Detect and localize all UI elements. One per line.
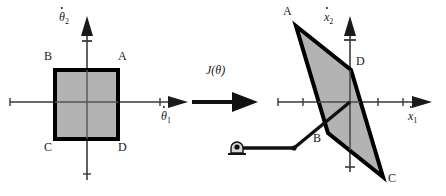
jacobian-label-J: J(	[206, 63, 215, 77]
pin-joint-ground-icon	[228, 142, 246, 154]
left-vertex-label-B: B	[44, 50, 52, 62]
right-y-axis-arrowhead	[344, 16, 356, 36]
left-x-axis-label: θ1	[161, 110, 171, 122]
manipulator-elbow-joint	[291, 145, 296, 150]
left-x-axis-label-sub: 1	[167, 116, 171, 125]
right-plot-group	[228, 16, 432, 177]
jacobian-transform-label: J(θ)	[206, 64, 225, 76]
diagram-svg	[0, 0, 446, 196]
left-y-axis-arrowhead	[81, 16, 93, 36]
left-vertex-label-A: A	[118, 50, 127, 62]
left-plot-group	[10, 16, 188, 180]
left-vertex-label-D: D	[118, 141, 127, 153]
left-y-axis-label-sub: 2	[65, 17, 69, 26]
transform-arrow-head	[232, 92, 258, 112]
figure-canvas: θ2 θ1 A B C D J(θ) x2 x1 A D C B	[0, 0, 446, 196]
right-vertex-label-B: B	[313, 132, 321, 144]
left-y-axis-label: θ2	[59, 11, 69, 23]
transform-arrow-group	[192, 92, 258, 112]
right-vertex-label-A: A	[283, 5, 292, 17]
left-vertex-label-C: C	[44, 141, 52, 153]
right-vertex-label-C: C	[388, 172, 396, 184]
right-x-axis-label-sub: 1	[413, 116, 417, 125]
right-vertex-label-D: D	[356, 55, 365, 67]
right-x-axis-arrowhead	[412, 96, 432, 108]
left-x-axis-arrowhead	[168, 96, 188, 108]
right-y-axis-label: x2	[324, 11, 333, 23]
jacobian-label-paren: )	[221, 63, 225, 77]
right-x-axis-label: x1	[408, 110, 417, 122]
right-y-axis-label-sub: 2	[329, 17, 333, 26]
